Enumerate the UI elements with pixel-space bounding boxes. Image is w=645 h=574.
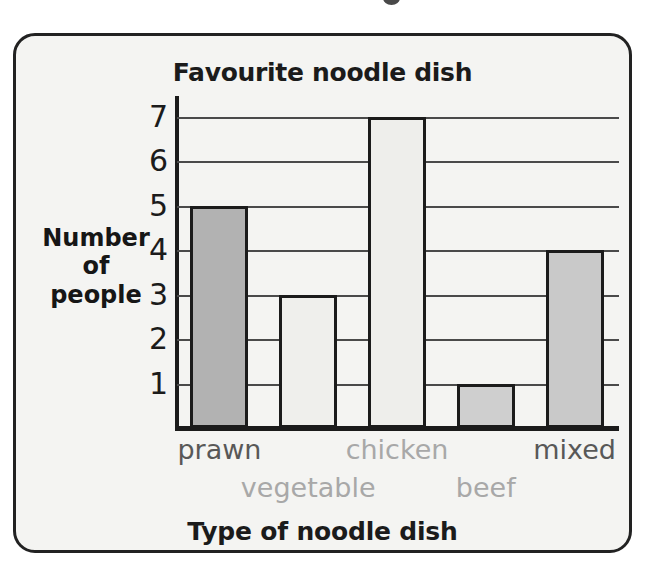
bar-prawn bbox=[190, 206, 248, 429]
y-tick-label-5: 5 bbox=[149, 191, 168, 221]
x-axis-title: Type of noodle dish bbox=[16, 517, 629, 546]
y-tick-label-4: 4 bbox=[149, 235, 168, 265]
y-tick-label-2: 2 bbox=[149, 324, 168, 354]
y-tick-label-1: 1 bbox=[149, 369, 168, 399]
category-label-mixed: mixed bbox=[533, 436, 616, 463]
y-axis-title-line-2: of bbox=[34, 252, 158, 280]
category-label-prawn: prawn bbox=[177, 436, 261, 463]
y-tick-label-3: 3 bbox=[149, 280, 168, 310]
category-label-chicken: chicken bbox=[346, 436, 449, 463]
y-axis-line bbox=[175, 96, 179, 431]
chart-title: Favourite noodle dish bbox=[16, 58, 629, 87]
bar-vegetable bbox=[279, 295, 337, 429]
y-tick-label-7: 7 bbox=[149, 102, 168, 132]
y-axis-title: Number of people bbox=[34, 224, 158, 309]
bar-mixed bbox=[546, 250, 604, 428]
y-axis-title-line-1: Number bbox=[34, 224, 158, 252]
y-tick-label-6: 6 bbox=[149, 146, 168, 176]
category-labels: prawnvegetablechickenbeefmixed bbox=[175, 436, 619, 518]
category-label-beef: beef bbox=[456, 474, 516, 501]
y-axis-title-line-3: people bbox=[34, 281, 158, 309]
category-label-vegetable: vegetable bbox=[241, 474, 376, 501]
cropped-glyph-artifact bbox=[383, 0, 400, 5]
chart-frame: Favourite noodle dish Number of people 1… bbox=[13, 33, 632, 553]
bar-chicken bbox=[368, 117, 426, 429]
plot-area: 1234567 bbox=[175, 96, 619, 431]
bar-beef bbox=[457, 384, 515, 429]
